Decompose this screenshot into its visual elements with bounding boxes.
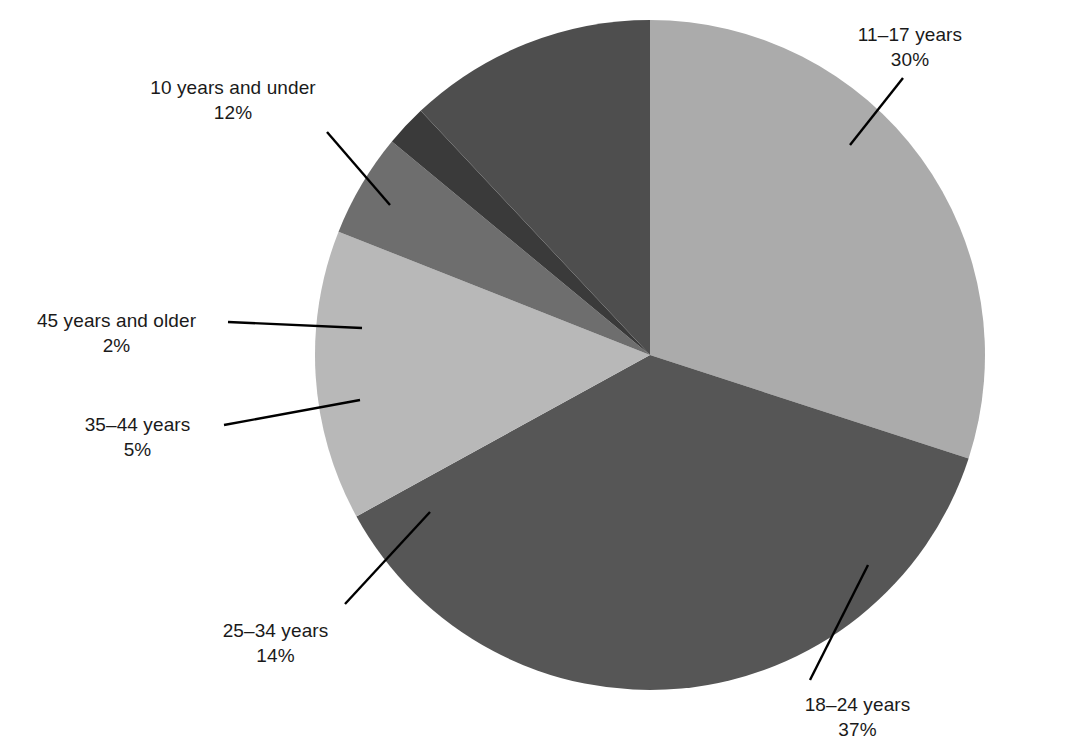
callout-45-years-and-older: 45 years and older 2%	[14, 308, 219, 358]
callout-10-years-and-under: 10 years and under 12%	[128, 75, 338, 125]
callout-10-under-category: 10 years and under	[128, 75, 338, 100]
callout-45-older-percent: 2%	[14, 333, 219, 358]
callout-11-17-percent: 30%	[820, 47, 1000, 72]
callout-45-older-category: 45 years and older	[14, 308, 219, 333]
pie-chart: 11–17 years 30% 10 years and under 12% 4…	[0, 0, 1065, 752]
callout-25-34-category: 25–34 years	[198, 618, 353, 643]
pie-slices-group	[315, 20, 985, 690]
callout-11-17-years: 11–17 years 30%	[820, 22, 1000, 72]
callout-35-44-percent: 5%	[60, 437, 215, 462]
callout-11-17-category: 11–17 years	[820, 22, 1000, 47]
callout-35-44-category: 35–44 years	[60, 412, 215, 437]
callout-18-24-percent: 37%	[780, 717, 935, 742]
callout-18-24-category: 18–24 years	[780, 692, 935, 717]
callout-25-34-years: 25–34 years 14%	[198, 618, 353, 668]
callout-10-under-percent: 12%	[128, 100, 338, 125]
callout-18-24-years: 18–24 years 37%	[780, 692, 935, 742]
callout-25-34-percent: 14%	[198, 643, 353, 668]
callout-35-44-years: 35–44 years 5%	[60, 412, 215, 462]
